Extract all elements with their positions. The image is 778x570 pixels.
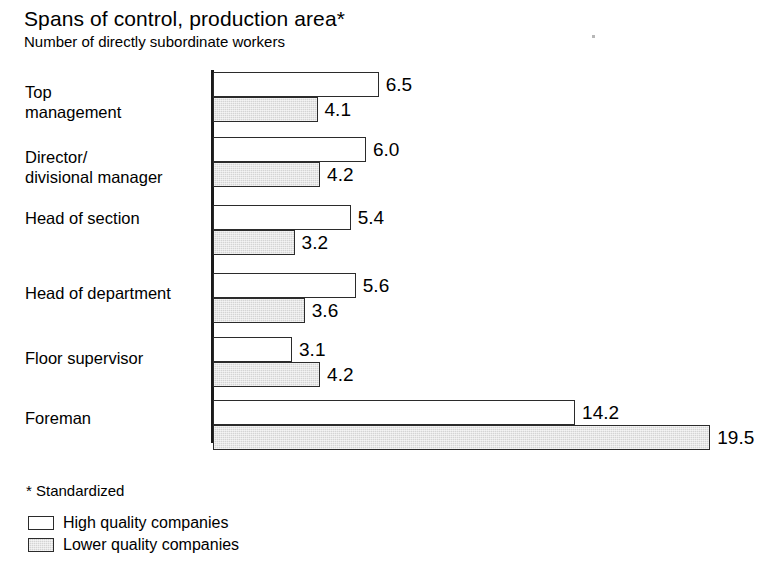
bar-high <box>213 400 575 425</box>
bar-high <box>213 72 379 97</box>
chart-figure: Spans of control, production area* Numbe… <box>0 0 778 570</box>
bar-value-label: 14.2 <box>582 400 619 425</box>
category-label: Foreman <box>25 408 210 428</box>
footnote: * Standardized <box>26 482 124 500</box>
bar-value-label: 3.1 <box>299 337 325 362</box>
bar-value-label: 6.0 <box>373 137 399 162</box>
legend-item-label: High quality companies <box>63 513 228 533</box>
bar-low <box>213 362 320 387</box>
value-axis-line <box>211 70 214 443</box>
category-label: Floor supervisor <box>25 348 210 368</box>
bar-low <box>213 298 305 323</box>
bar-high <box>213 137 366 162</box>
gray-square-icon <box>28 538 54 552</box>
bar-value-label: 4.2 <box>327 162 353 187</box>
bar-high <box>213 273 356 298</box>
category-label: Head of section <box>25 208 210 228</box>
white-square-icon <box>28 516 54 530</box>
bar-value-label: 3.2 <box>302 230 328 255</box>
bar-value-label: 4.1 <box>325 97 351 122</box>
scan-speck <box>592 35 595 38</box>
bar-value-label: 19.5 <box>717 425 754 450</box>
bar-low <box>213 230 295 255</box>
legend-item-low: Lower quality companies <box>28 534 239 556</box>
legend: High quality companies Lower quality com… <box>28 512 239 556</box>
bar-value-label: 6.5 <box>386 72 412 97</box>
legend-item-high: High quality companies <box>28 512 239 534</box>
category-label: Head of department <box>25 283 210 303</box>
bar-value-label: 4.2 <box>327 362 353 387</box>
bar-value-label: 5.6 <box>363 273 389 298</box>
bar-high <box>213 337 292 362</box>
category-label: Director/ divisional manager <box>25 147 210 187</box>
bar-low <box>213 162 320 187</box>
legend-item-label: Lower quality companies <box>63 535 239 555</box>
bar-low <box>213 97 318 122</box>
category-label: Top management <box>25 82 210 122</box>
bar-value-label: 3.6 <box>312 298 338 323</box>
bar-value-label: 5.4 <box>358 205 384 230</box>
bar-low <box>213 425 710 450</box>
bar-high <box>213 205 351 230</box>
